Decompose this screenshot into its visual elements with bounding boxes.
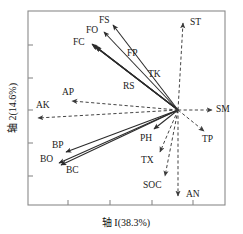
biplot-canvas: FS FO FC FP TK RS AP AK BP BO BC PH ST S… — [0, 0, 243, 234]
label-TX: TX — [141, 155, 154, 165]
vector-AK — [38, 110, 178, 118]
plot-frame — [28, 11, 225, 205]
vector-ST — [178, 23, 183, 110]
vector-BP — [66, 110, 178, 152]
label-ST: ST — [190, 17, 201, 27]
label-FC: FC — [73, 37, 85, 47]
label-RS: RS — [123, 81, 135, 91]
x-axis-title: 轴 I(38.3%) — [102, 216, 150, 229]
vector-labels: FS FO FC FP TK RS AP AK BP BO BC PH ST S… — [36, 15, 230, 199]
vector-BC — [61, 110, 178, 165]
pca-biplot-figure: FS FO FC FP TK RS AP AK BP BO BC PH ST S… — [0, 0, 243, 234]
label-FP: FP — [127, 48, 138, 58]
vector-AP — [72, 101, 178, 110]
dashed-vectors — [38, 23, 212, 196]
y-axis-ticks — [28, 45, 33, 176]
label-SM: SM — [216, 104, 230, 114]
label-AN: AN — [186, 189, 200, 199]
label-AP: AP — [62, 87, 74, 97]
label-FO: FO — [86, 25, 98, 35]
label-SOC: SOC — [143, 180, 161, 190]
x-axis-ticks — [68, 200, 193, 205]
label-BC: BC — [66, 165, 79, 175]
label-BO: BO — [40, 154, 53, 164]
label-TK: TK — [148, 69, 161, 79]
label-FS: FS — [99, 15, 110, 25]
label-PH: PH — [140, 133, 152, 143]
vector-FO — [104, 32, 178, 110]
label-AK: AK — [36, 100, 50, 110]
vector-TP — [178, 110, 204, 131]
vector-SOC — [165, 110, 178, 176]
label-TP: TP — [202, 134, 213, 144]
y-axis-title: 轴 2(14.6%) — [6, 83, 19, 133]
label-BP: BP — [52, 140, 64, 150]
